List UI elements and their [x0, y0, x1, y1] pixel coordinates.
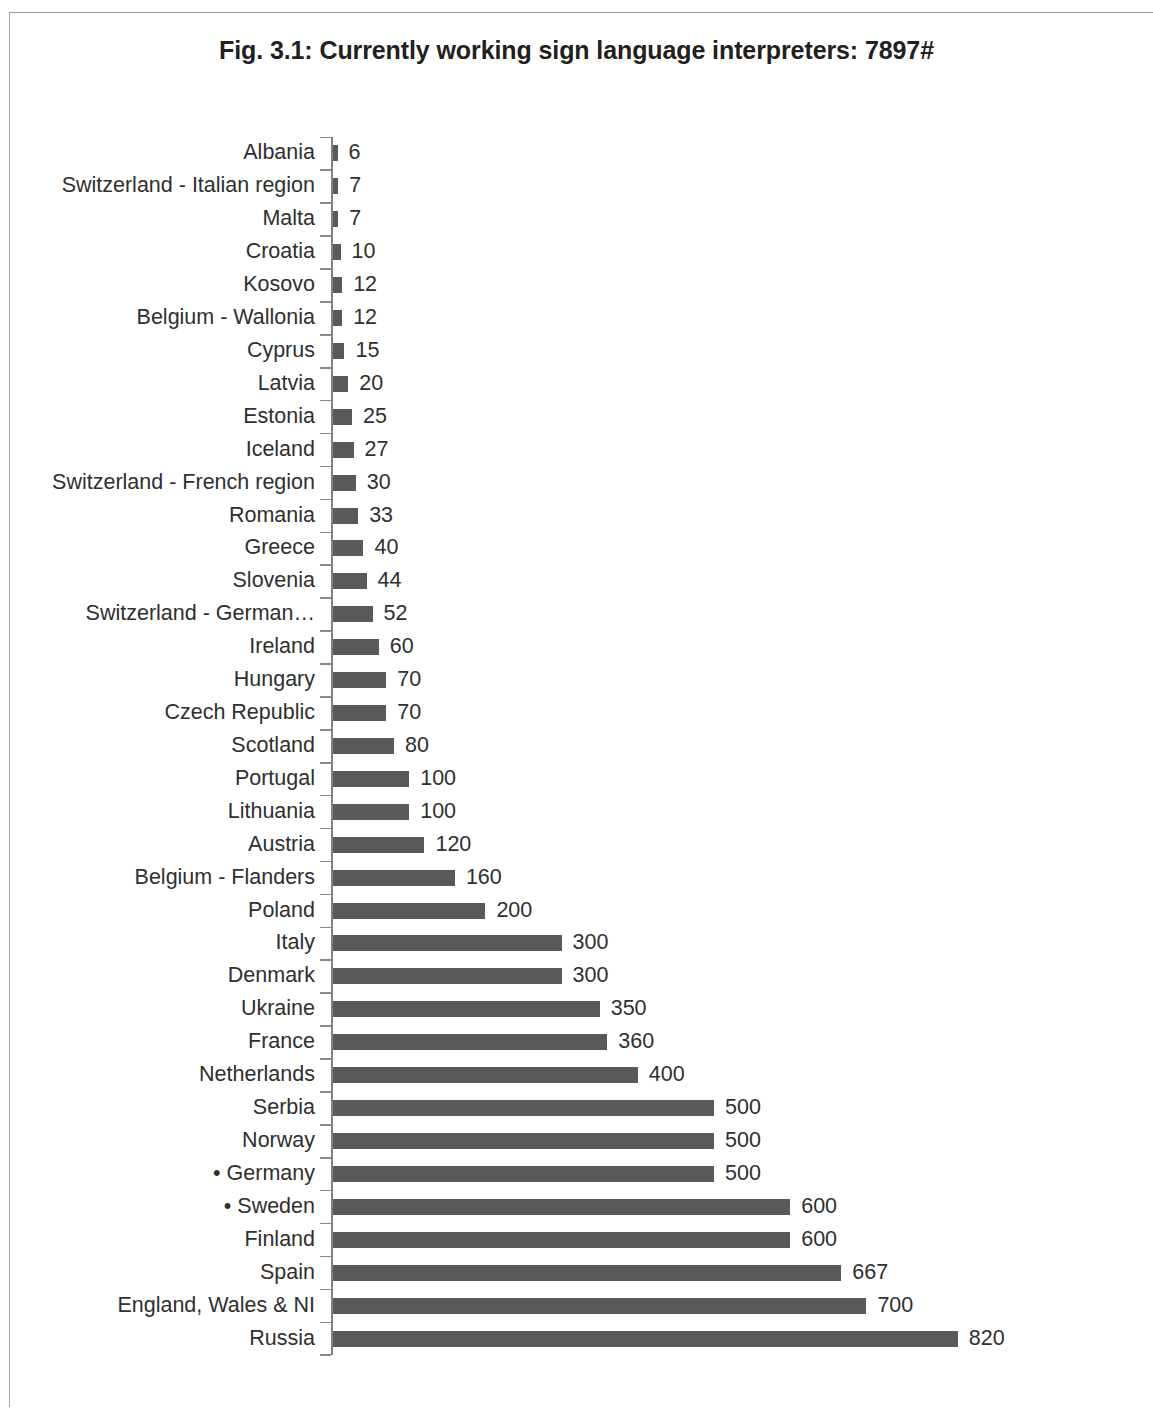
axis-tick [320, 235, 331, 237]
bar [333, 540, 363, 556]
axis-tick [320, 630, 331, 632]
axis-tick [320, 992, 331, 994]
bar-row: Austria120 [0, 828, 1153, 861]
bar-row: England, Wales & NI700 [0, 1289, 1153, 1322]
category-label: Scotland [231, 735, 315, 757]
bar-value-label: 70 [397, 669, 421, 691]
bar-value-label: 40 [374, 538, 398, 560]
bar-row: Poland200 [0, 894, 1153, 927]
category-label: • Germany [213, 1163, 315, 1185]
bar-row: Albania6 [0, 137, 1153, 170]
bar-row: Scotland80 [0, 730, 1153, 763]
axis-tick [320, 927, 331, 929]
bar-row: Slovenia44 [0, 565, 1153, 598]
bar-value-label: 160 [466, 867, 502, 889]
axis-tick [320, 301, 331, 303]
bar-value-label: 80 [405, 735, 429, 757]
bar-row: Greece40 [0, 532, 1153, 565]
category-label: Finland [244, 1229, 315, 1251]
category-label: Albania [243, 143, 315, 165]
category-label: Slovenia [233, 571, 315, 593]
axis-tick [320, 564, 331, 566]
category-label: Denmark [228, 966, 315, 988]
bar [333, 178, 338, 194]
category-label: Switzerland - Italian region [62, 176, 315, 198]
category-label: Ireland [249, 636, 315, 658]
bar-value-label: 400 [649, 1064, 685, 1086]
bar [333, 310, 342, 326]
axis-tick [320, 466, 331, 468]
bar [333, 1331, 958, 1347]
bar-row: Malta7 [0, 203, 1153, 236]
axis-tick [320, 663, 331, 665]
bar-value-label: 820 [969, 1328, 1005, 1350]
bar [333, 1034, 607, 1050]
axis-tick [320, 268, 331, 270]
category-label: • Sweden [224, 1196, 315, 1218]
bar-value-label: 100 [420, 768, 456, 790]
bar [333, 870, 455, 886]
bar-row: Serbia500 [0, 1092, 1153, 1125]
axis-tick [320, 367, 331, 369]
bar-value-label: 20 [359, 373, 383, 395]
bar [333, 639, 379, 655]
axis-tick [320, 400, 331, 402]
axis-tick [320, 1190, 331, 1192]
axis-tick [320, 894, 331, 896]
axis-tick [320, 597, 331, 599]
bar-value-label: 70 [397, 702, 421, 724]
bar [333, 376, 348, 392]
category-label: Switzerland - French region [52, 472, 315, 494]
bar-row: France360 [0, 1026, 1153, 1059]
category-label: Italy [276, 933, 315, 955]
bar [333, 145, 338, 161]
bar [333, 1166, 714, 1182]
bar-row: Switzerland - German…52 [0, 598, 1153, 631]
category-label: Czech Republic [164, 702, 315, 724]
axis-tick [320, 1322, 331, 1324]
category-label: Greece [244, 538, 315, 560]
axis-tick [320, 729, 331, 731]
bar-value-label: 300 [573, 966, 609, 988]
axis-tick [320, 532, 331, 534]
axis-tick [320, 1157, 331, 1159]
bar-row: Belgium - Flanders160 [0, 861, 1153, 894]
bar-row: Norway500 [0, 1125, 1153, 1158]
axis-tick [320, 959, 331, 961]
bar [333, 903, 485, 919]
bar [333, 1298, 866, 1314]
axis-tick [320, 762, 331, 764]
bar-value-label: 52 [384, 604, 408, 626]
category-label: Estonia [243, 406, 315, 428]
bar [333, 1067, 638, 1083]
bar-value-label: 500 [725, 1097, 761, 1119]
bar-row: Ireland60 [0, 631, 1153, 664]
category-label: Poland [248, 900, 315, 922]
bar-row: Italy300 [0, 927, 1153, 960]
bar-value-label: 12 [353, 307, 377, 329]
bar-row: Latvia20 [0, 367, 1153, 400]
category-label: Serbia [253, 1097, 315, 1119]
bar-row: Ukraine350 [0, 993, 1153, 1026]
bar [333, 606, 373, 622]
bar-row: Hungary70 [0, 664, 1153, 697]
category-label: Belgium - Wallonia [137, 307, 315, 329]
bar-value-label: 360 [618, 1031, 654, 1053]
bar-row: Switzerland - French region30 [0, 466, 1153, 499]
bar [333, 1232, 790, 1248]
bar-row: Denmark300 [0, 960, 1153, 993]
bar [333, 1133, 714, 1149]
bar-row: Lithuania100 [0, 795, 1153, 828]
bar-row: Czech Republic70 [0, 697, 1153, 730]
bar-row: Switzerland - Italian region7 [0, 170, 1153, 203]
bar-value-label: 12 [353, 274, 377, 296]
category-label: Lithuania [228, 801, 315, 823]
axis-tick [320, 137, 331, 139]
bar-row: Belgium - Wallonia12 [0, 302, 1153, 335]
category-label: Russia [249, 1328, 315, 1350]
bar-value-label: 60 [390, 636, 414, 658]
bar-value-label: 120 [435, 834, 471, 856]
bar [333, 738, 394, 754]
category-label: England, Wales & NI [117, 1295, 315, 1317]
bar-value-label: 7 [349, 176, 361, 198]
